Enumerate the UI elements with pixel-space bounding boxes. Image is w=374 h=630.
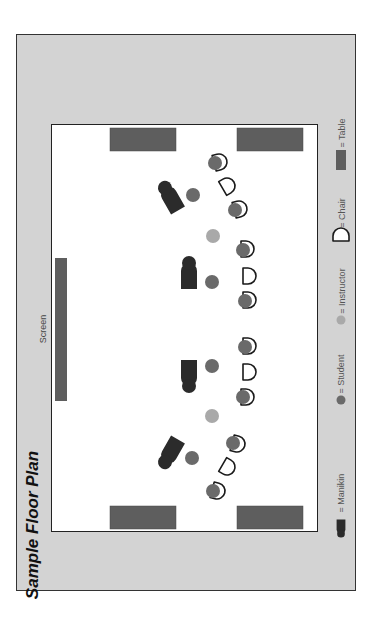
student	[205, 275, 219, 289]
table	[110, 506, 176, 529]
student	[236, 390, 250, 404]
projection-screen	[55, 258, 67, 401]
floor-plan-diagram: Sample Floor Plan Screen = Manikin= Stud…	[0, 0, 374, 630]
student-icon	[337, 396, 346, 405]
table	[237, 128, 303, 151]
legend-label: = Student	[336, 354, 346, 393]
instructor-icon	[337, 316, 346, 325]
student	[208, 156, 222, 170]
table-icon	[336, 150, 346, 170]
student	[236, 243, 250, 257]
student	[206, 484, 220, 498]
empty-chair	[243, 364, 256, 380]
student	[205, 359, 219, 373]
manikin	[181, 256, 197, 289]
empty-chair	[219, 175, 238, 195]
legend-label: = Table	[336, 118, 346, 147]
student	[186, 188, 200, 202]
manikin	[155, 436, 185, 473]
student	[238, 340, 252, 354]
table	[237, 506, 303, 529]
manikin	[181, 360, 197, 393]
legend-label: = Chair	[336, 198, 346, 227]
manikin-icon	[337, 519, 346, 537]
manikin	[155, 178, 185, 215]
instructor	[205, 409, 219, 423]
student	[228, 203, 242, 217]
legend-label: = Instructor	[336, 268, 346, 313]
student	[185, 451, 199, 465]
chair-icon	[333, 228, 349, 241]
table	[110, 128, 176, 151]
legend-label: = Manikin	[336, 473, 346, 512]
student	[238, 294, 252, 308]
student	[226, 436, 240, 450]
empty-chair	[219, 458, 238, 478]
instructor	[206, 229, 220, 243]
floor-plan-canvas	[0, 0, 374, 630]
empty-chair	[243, 268, 256, 284]
